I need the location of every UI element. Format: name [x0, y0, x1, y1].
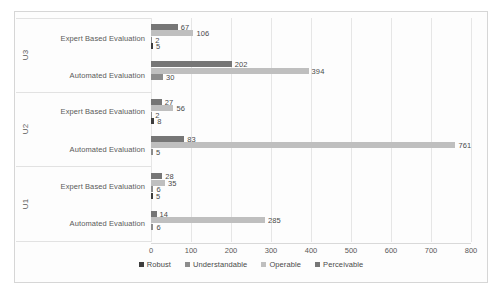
category-label: Expert Based Evaluation: [61, 107, 145, 116]
bar-value-label: 30: [166, 73, 175, 82]
bar-perceivable: [151, 211, 157, 217]
bar-understandable: [151, 186, 153, 192]
legend-label: Operable: [269, 260, 301, 269]
legend-swatch-icon: [139, 262, 144, 267]
gridline: [351, 18, 352, 242]
category-label: Expert Based Evaluation: [61, 33, 145, 42]
category-label: Automated Evaluation: [70, 219, 145, 228]
bar-value-label: 6: [156, 185, 160, 194]
legend-label: Understandable: [193, 260, 247, 269]
value-axis-tick-label: 300: [265, 246, 278, 255]
bar-understandable: [151, 37, 152, 43]
bar-operable: [151, 68, 309, 74]
gridline: [471, 18, 472, 242]
gridline: [431, 18, 432, 242]
plot-area: 5210667030394202825627057618356352806285…: [151, 18, 471, 242]
legend-swatch-icon: [185, 262, 190, 267]
group-label: U1: [21, 199, 30, 210]
gridline: [271, 18, 272, 242]
category-label: Automated Evaluation: [70, 71, 145, 80]
category-label: Expert Based Evaluation: [61, 181, 145, 190]
legend-item-robust[interactable]: Robust: [139, 260, 171, 269]
group-label: U3: [21, 50, 30, 61]
bar-understandable: [151, 74, 163, 80]
bar-value-label: 56: [176, 104, 185, 113]
bar-perceivable: [151, 61, 232, 67]
value-axis: 0100200300400500600700800: [151, 243, 471, 259]
bar-value-label: 67: [181, 23, 190, 32]
bar-value-label: 285: [268, 216, 281, 225]
legend-swatch-icon: [315, 262, 320, 267]
bar-value-label: 2: [155, 35, 159, 44]
group-label: U2: [21, 124, 30, 135]
bar-understandable: [151, 149, 153, 155]
value-axis-tick-label: 0: [149, 246, 153, 255]
value-axis-tick-label: 800: [465, 246, 478, 255]
value-axis-tick-label: 500: [345, 246, 358, 255]
bar-operable: [151, 180, 165, 186]
category-group-u3: U3Expert Based EvaluationAutomated Evalu…: [16, 18, 151, 93]
bar-robust: [151, 43, 153, 49]
value-axis-tick-label: 200: [225, 246, 238, 255]
bar-value-label: 202: [235, 60, 248, 69]
bar-value-label: 28: [165, 172, 174, 181]
gridline: [391, 18, 392, 242]
category-group-u2: U2Expert Based EvaluationAutomated Evalu…: [16, 93, 151, 168]
bar-value-label: 2: [155, 110, 159, 119]
legend-item-understandable[interactable]: Understandable: [185, 260, 247, 269]
gridline: [231, 18, 232, 242]
gridline: [151, 18, 152, 242]
bar-value-label: 5: [156, 147, 160, 156]
category-label: Automated Evaluation: [70, 144, 145, 153]
value-axis-tick-label: 400: [305, 246, 318, 255]
category-group-u1: U1Expert Based EvaluationAutomated Evalu…: [16, 167, 151, 242]
chart-container: U3Expert Based EvaluationAutomated Evalu…: [14, 11, 488, 283]
bar-perceivable: [151, 24, 178, 30]
chart-legend: RobustUnderstandableOperablePerceivable: [15, 260, 487, 269]
bar-understandable: [151, 112, 152, 118]
value-axis-tick-label: 700: [425, 246, 438, 255]
bar-perceivable: [151, 136, 184, 142]
value-axis-tick-label: 100: [185, 246, 198, 255]
gridline: [311, 18, 312, 242]
bar-value-label: 106: [196, 29, 209, 38]
legend-label: Perceivable: [323, 260, 363, 269]
bar-robust: [151, 118, 154, 124]
bar-robust: [151, 193, 153, 199]
value-axis-tick-label: 600: [385, 246, 398, 255]
value-axis-line: [151, 243, 471, 244]
bar-operable: [151, 142, 455, 148]
bar-understandable: [151, 224, 153, 230]
legend-label: Robust: [147, 260, 171, 269]
legend-item-perceivable[interactable]: Perceivable: [315, 260, 363, 269]
bar-value-label: 14: [160, 209, 169, 218]
bar-value-label: 83: [187, 135, 196, 144]
bar-value-label: 27: [165, 97, 174, 106]
bar-perceivable: [151, 173, 162, 179]
gridline: [191, 18, 192, 242]
bar-value-label: 761: [458, 141, 471, 150]
bar-value-label: 394: [312, 66, 325, 75]
bar-perceivable: [151, 99, 162, 105]
legend-item-operable[interactable]: Operable: [261, 260, 301, 269]
bar-value-label: 6: [156, 222, 160, 231]
category-axis: U3Expert Based EvaluationAutomated Evalu…: [16, 18, 151, 242]
legend-swatch-icon: [261, 262, 266, 267]
